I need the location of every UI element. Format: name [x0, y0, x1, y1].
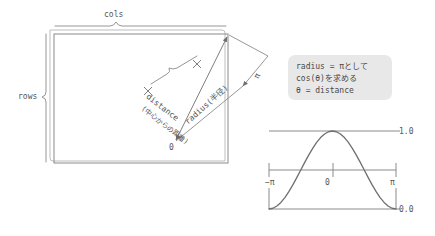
illustration-canvas: radius = πとして cos(θ)を求める θ = distance co… — [0, 0, 435, 236]
pi-arrow-line — [243, 56, 268, 86]
chart-xlabel-pi: π — [390, 178, 395, 187]
note-box: radius = πとして cos(θ)を求める θ = distance — [288, 55, 392, 100]
distance-endpoint-marks — [144, 60, 201, 95]
note-line-2: cos(θ)を求める — [296, 73, 384, 85]
grid-rectangle-shadow — [50, 30, 225, 161]
note-line-1: radius = πとして — [296, 61, 384, 73]
note-line-3: θ = distance — [296, 85, 384, 97]
grid-rectangle-shadow-top — [50, 30, 225, 161]
pi-arrow-leader — [229, 35, 268, 56]
cols-brace — [55, 22, 226, 26]
grid-rectangle-group — [50, 30, 228, 163]
cols-label: cols — [104, 10, 123, 19]
vector-graphics-layer — [0, 0, 435, 236]
rows-brace — [42, 34, 46, 162]
diagonal-origin-label: 0 — [169, 143, 174, 152]
chart-xlabel-negpi: −π — [265, 178, 275, 187]
cosine-chart — [269, 131, 400, 209]
chart-xlabel-zero: 0 — [325, 178, 330, 187]
chart-ylabel-min: 0.0 — [399, 205, 413, 214]
rows-label: rows — [18, 92, 37, 101]
distance-brace — [151, 56, 197, 84]
chart-ylabel-max: 1.0 — [399, 127, 413, 136]
